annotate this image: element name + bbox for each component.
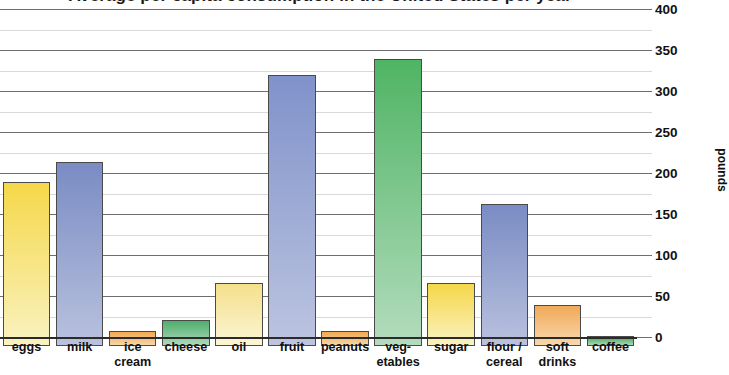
- y-axis-tick-label: 100: [655, 248, 678, 263]
- x-axis-tick-label: flour /cereal: [478, 340, 531, 370]
- x-axis-tick-label-line: soft: [531, 340, 584, 355]
- chart-title: Average per capita consumption in the Un…: [0, 0, 640, 5]
- x-axis-tick-label: eggs: [0, 340, 53, 355]
- y-axis-labels: 400350300250200150100500: [655, 0, 701, 375]
- y-axis-tick: [637, 173, 652, 174]
- y-axis-tick-label: 200: [655, 166, 678, 181]
- x-axis-tick-label-line: cheese: [159, 340, 212, 355]
- x-axis-tick-label: coffee: [584, 340, 637, 355]
- y-axis-tick-label: 300: [655, 84, 678, 99]
- y-axis-tick-label: 250: [655, 125, 678, 140]
- bar: [374, 59, 422, 346]
- x-axis-tick-label-line: ice: [106, 340, 159, 355]
- x-axis-labels: eggsmilkicecreamcheeseoilfruitpeanutsveg…: [0, 340, 637, 375]
- x-axis-tick-label-line: fruit: [265, 340, 318, 355]
- x-axis-tick-label: peanuts: [319, 340, 372, 355]
- x-axis-tick-label-line: etables: [372, 355, 425, 370]
- x-axis-tick-label-line: drinks: [531, 355, 584, 370]
- y-axis-tick-label: 150: [655, 207, 678, 222]
- y-axis-tick: [637, 255, 652, 256]
- y-axis-tick: [637, 71, 652, 72]
- x-axis-tick-label-line: coffee: [584, 340, 637, 355]
- x-axis-tick-label-line: eggs: [0, 340, 53, 355]
- x-axis-tick-label-line: cream: [106, 355, 159, 370]
- bars-group: [0, 18, 637, 346]
- bar: [3, 182, 51, 346]
- bar: [481, 204, 529, 346]
- x-axis-line: [0, 337, 637, 339]
- y-axis-tick: [637, 296, 652, 297]
- plot-area: [0, 9, 637, 337]
- x-axis-tick-label-line: oil: [212, 340, 265, 355]
- y-axis-tick: [637, 194, 652, 195]
- y-axis-tick: [637, 153, 652, 154]
- y-axis-tick-label: 350: [655, 43, 678, 58]
- x-axis-tick-label: softdrinks: [531, 340, 584, 370]
- y-axis-tick: [637, 30, 652, 31]
- x-axis-tick-label: milk: [53, 340, 106, 355]
- y-axis-tick: [637, 91, 652, 92]
- y-axis-tick-label: 0: [655, 330, 663, 345]
- y-axis-tick: [637, 276, 652, 277]
- y-axis-tick: [637, 50, 652, 51]
- y-axis-tick: [637, 132, 652, 133]
- y-axis-tick: [637, 235, 652, 236]
- x-axis-tick-label: veg-etables: [372, 340, 425, 370]
- y-axis-tick: [637, 337, 652, 338]
- x-axis-tick-label: oil: [212, 340, 265, 355]
- x-axis-tick-label-line: veg-: [372, 340, 425, 355]
- gridline-major: [0, 9, 637, 10]
- bar: [268, 75, 316, 346]
- y-axis-tick-label: 50: [655, 289, 670, 304]
- x-axis-tick-label: sugar: [425, 340, 478, 355]
- y-axis-tick: [637, 112, 652, 113]
- y-axis-tick: [637, 214, 652, 215]
- x-axis-tick-label: cheese: [159, 340, 212, 355]
- bar: [56, 162, 104, 347]
- x-axis-tick-label: icecream: [106, 340, 159, 370]
- x-axis-tick-label: fruit: [265, 340, 318, 355]
- y-axis-title: pounds: [715, 148, 729, 191]
- x-axis-tick-label-line: milk: [53, 340, 106, 355]
- y-axis-tick: [637, 9, 652, 10]
- x-axis-tick-label-line: peanuts: [319, 340, 372, 355]
- x-axis-tick-label-line: sugar: [425, 340, 478, 355]
- x-axis-tick-label-line: cereal: [478, 355, 531, 370]
- y-axis-tick: [637, 317, 652, 318]
- y-axis-tick-label: 400: [655, 2, 678, 17]
- x-axis-tick-label-line: flour /: [478, 340, 531, 355]
